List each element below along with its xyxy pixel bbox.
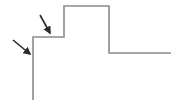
arrow-icon-lower bbox=[13, 40, 30, 54]
diagram-canvas bbox=[0, 0, 183, 109]
step-line bbox=[33, 6, 171, 100]
arrow-icon-upper bbox=[40, 15, 50, 33]
step-diagram bbox=[0, 0, 183, 109]
